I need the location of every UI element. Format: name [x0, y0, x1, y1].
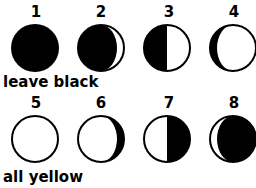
moon-phases-diagram [0, 0, 256, 188]
moon-phase-1-icon [11, 24, 59, 72]
caption-leave-black: leave black [3, 74, 98, 90]
moon-phase-6-icon [78, 116, 124, 162]
moon-phase-7-icon [144, 116, 190, 162]
moon-phase-8-icon [210, 116, 256, 162]
caption-all-yellow: all yellow [3, 169, 83, 185]
moon-phase-4-icon [210, 25, 256, 71]
moon-phase-3-icon [144, 25, 190, 71]
moon-phase-2-icon [78, 25, 124, 71]
moon-phase-5-icon [12, 116, 58, 162]
